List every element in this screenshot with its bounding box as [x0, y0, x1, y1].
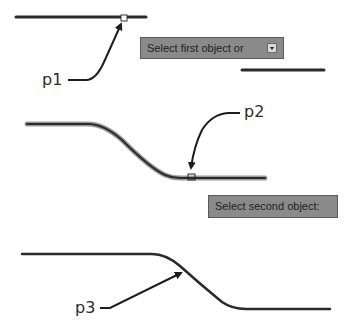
p1-pointer-arrow — [68, 24, 121, 80]
fillet-preview-curve — [27, 124, 265, 178]
label-p3: p3 — [75, 300, 95, 316]
p2-pointer-arrow — [191, 113, 240, 168]
dropdown-arrow-icon[interactable] — [267, 43, 277, 53]
prompt-tooltip-first: Select first object or — [140, 37, 284, 59]
fillet-result-curve — [22, 254, 330, 309]
label-p2: p2 — [244, 104, 264, 120]
prompt-text-second: Select second object: — [215, 200, 320, 212]
prompt-tooltip-second: Select second object: — [208, 195, 338, 218]
p3-pointer-arrow — [100, 273, 181, 308]
prompt-text-first: Select first object or — [147, 42, 244, 54]
pickbox-p1 — [121, 15, 127, 21]
label-p1: p1 — [42, 72, 62, 88]
